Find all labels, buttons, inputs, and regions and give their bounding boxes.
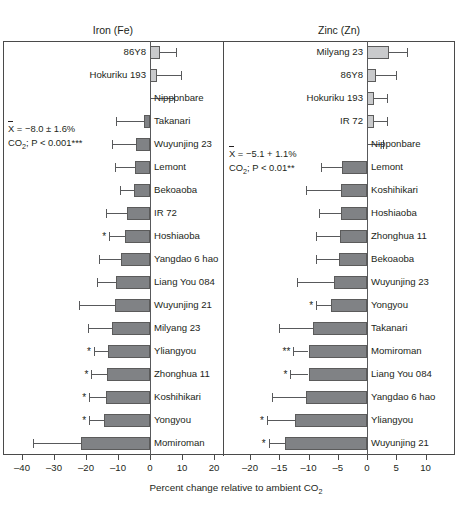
bar-row: Hoshiaoba* — [3, 225, 223, 248]
axis-tick — [86, 455, 87, 460]
error-bar-cap — [269, 439, 270, 448]
bar-row: Wuyunjing 21 — [3, 294, 223, 317]
bar — [367, 69, 376, 82]
bar — [150, 69, 157, 82]
cultivar-label: Koshihikari — [371, 182, 418, 198]
bar — [340, 230, 367, 243]
error-bar — [157, 75, 180, 76]
error-bar-cap — [89, 393, 90, 402]
bar — [367, 92, 374, 105]
cultivar-label: Zhonghua 11 — [371, 228, 427, 244]
error-bar-cap — [279, 324, 280, 333]
bar-row: Milyang 23 — [3, 317, 223, 340]
cultivar-label: Yangdao 6 hao — [371, 389, 435, 405]
error-bar-cap — [316, 301, 317, 310]
error-bar-cap — [97, 278, 98, 287]
bar-row: Momiroman — [3, 432, 223, 455]
bar — [367, 46, 389, 59]
cultivar-label: Milyang 23 — [317, 44, 363, 60]
error-bar — [316, 305, 331, 306]
error-bar-cap — [176, 48, 177, 57]
bar — [121, 253, 150, 266]
axis-tick — [54, 455, 55, 460]
bar — [144, 115, 150, 128]
error-bar-cap — [106, 209, 107, 218]
cultivar-label: Hoshiaoba — [154, 228, 200, 244]
bar — [339, 253, 367, 266]
error-bar-cap — [116, 117, 117, 126]
axis-tick — [338, 455, 339, 460]
cultivar-label: Liang You 084 — [371, 366, 432, 382]
error-bar — [112, 144, 136, 145]
bar-row: Yliangyou* — [3, 340, 223, 363]
error-bar — [269, 443, 285, 444]
significance-marker: ** — [279, 344, 290, 360]
bar — [125, 230, 150, 243]
cultivar-label: Wuyunjing 21 — [371, 435, 429, 451]
bar — [334, 276, 367, 289]
error-bar-cap — [321, 163, 322, 172]
error-bar — [99, 259, 121, 260]
axis-tick — [182, 455, 183, 460]
axis-title-text: Percent change relative to ambient CO — [150, 482, 319, 493]
cultivar-label: Lemont — [154, 159, 186, 175]
panel-title-iron: Iron (Fe) — [3, 24, 223, 36]
bar-row: Yongyou* — [224, 294, 455, 317]
cultivar-label: Nipponbare — [154, 90, 204, 106]
significance-marker: * — [75, 390, 86, 406]
stats-annotation-zinc: X = −5.1 + 1.1% CO2; P < 0.01** — [229, 147, 297, 178]
significance-marker: * — [75, 413, 86, 429]
axis-tick — [118, 455, 119, 460]
bar-row: Milyang 23 — [224, 41, 455, 64]
bar — [107, 368, 150, 381]
axis-tick-label: 10 — [406, 462, 446, 473]
error-bar — [389, 52, 407, 53]
bar — [134, 184, 150, 197]
cultivar-label: Wuyunjing 23 — [154, 136, 212, 152]
cultivar-label: Yliangyou — [371, 412, 413, 428]
error-bar — [79, 305, 116, 306]
error-bar-cap — [387, 117, 388, 126]
mean-value-iron: = −8.0 ± 1.6% — [14, 123, 75, 134]
bar-row: Koshihikari* — [3, 386, 223, 409]
axis-tick — [396, 455, 397, 460]
error-bar — [109, 236, 125, 237]
cultivar-label: Lemont — [371, 159, 403, 175]
error-bar-cap — [88, 324, 89, 333]
bar-row: Yliangyou* — [224, 409, 455, 432]
cultivar-label: Liang You 084 — [154, 274, 215, 290]
bar-row: IR 72 — [224, 110, 455, 133]
bar — [150, 46, 160, 59]
bar-row: Takanari — [224, 317, 455, 340]
cultivar-label: IR 72 — [340, 113, 363, 129]
error-bar-cap — [99, 255, 100, 264]
bar — [341, 207, 367, 220]
cultivar-label: 86Y8 — [124, 44, 146, 60]
axis-tick — [279, 455, 280, 460]
error-bar-cap — [387, 94, 388, 103]
significance-marker: * — [276, 367, 287, 383]
error-bar-cap — [407, 48, 408, 57]
cultivar-label: Bekoaoba — [154, 182, 197, 198]
bar-row: 86Y8 — [3, 41, 223, 64]
significance-marker: * — [255, 436, 266, 452]
axis-title: Percent change relative to ambient CO2 — [0, 482, 472, 496]
error-bar — [120, 190, 134, 191]
cultivar-label: Wuyunjing 23 — [371, 274, 429, 290]
cultivar-label: Takanari — [371, 320, 407, 336]
error-bar-cap — [109, 232, 110, 241]
bar-row: Liang You 084 — [3, 271, 223, 294]
co2-label-zinc: CO — [229, 162, 243, 173]
error-bar — [91, 374, 106, 375]
bar-row: Wuyunjing 21* — [224, 432, 455, 455]
bar — [116, 276, 150, 289]
bar-row: Wuyunjing 23 — [224, 271, 455, 294]
bar-row: Koshihikari — [224, 179, 455, 202]
bar-row: Yongyou* — [3, 409, 223, 432]
cultivar-label: Takanari — [154, 113, 190, 129]
bar — [306, 391, 367, 404]
bar — [106, 391, 150, 404]
error-bar — [160, 52, 176, 53]
error-bar — [88, 328, 112, 329]
pvalue-iron: ; P < 0.001*** — [26, 137, 82, 148]
